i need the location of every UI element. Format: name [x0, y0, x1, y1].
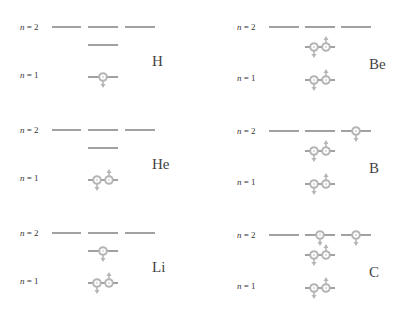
electron-spin-up-icon — [105, 272, 113, 287]
n2-label: n = 2 — [237, 22, 256, 32]
panel-c: n = 2n = 1C — [237, 230, 379, 299]
element-symbol: Be — [369, 56, 386, 72]
electron-spin-up-icon — [322, 173, 330, 188]
n2-label: n = 2 — [237, 230, 256, 240]
element-symbol: C — [369, 264, 379, 280]
n1-label: n = 1 — [237, 281, 256, 291]
electron-spin-down-icon — [310, 147, 318, 162]
n2-label: n = 2 — [237, 126, 256, 136]
panel-b: n = 2n = 1B — [237, 126, 379, 195]
electron-spin-up-icon — [322, 69, 330, 84]
element-symbol: Li — [152, 259, 165, 275]
n1-label: n = 1 — [20, 70, 39, 80]
n2-label: n = 2 — [20, 22, 39, 32]
electron-spin-down-icon — [99, 73, 107, 88]
electron-spin-down-icon — [93, 176, 101, 191]
electron-spin-down-icon — [310, 251, 318, 266]
electron-spin-up-icon — [322, 244, 330, 259]
electron-spin-down-icon — [99, 247, 107, 262]
n2-label: n = 2 — [20, 228, 39, 238]
panel-li: n = 2n = 1Li — [20, 228, 165, 294]
n1-label: n = 1 — [237, 177, 256, 187]
electron-spin-down-icon — [310, 284, 318, 299]
element-symbol: H — [152, 53, 163, 69]
n1-label: n = 1 — [20, 173, 39, 183]
element-symbol: B — [369, 160, 379, 176]
n1-label: n = 1 — [237, 73, 256, 83]
electron-spin-down-icon — [352, 127, 360, 142]
electron-spin-down-icon — [352, 231, 360, 246]
n1-label: n = 1 — [20, 276, 39, 286]
electron-spin-down-icon — [310, 43, 318, 58]
panel-h: n = 2n = 1H — [20, 22, 163, 88]
panel-he: n = 2n = 1He — [20, 125, 170, 191]
electron-spin-down-icon — [310, 76, 318, 91]
electron-spin-up-icon — [322, 140, 330, 155]
electron-spin-down-icon — [310, 180, 318, 195]
electron-spin-down-icon — [93, 279, 101, 294]
electron-spin-up-icon — [322, 36, 330, 51]
electron-spin-up-icon — [322, 277, 330, 292]
element-symbol: He — [152, 156, 170, 172]
electron-spin-down-icon — [316, 231, 324, 246]
electron-spin-up-icon — [105, 169, 113, 184]
orbital-energy-diagram: n = 2n = 1Hn = 2n = 1Hen = 2n = 1Lin = 2… — [0, 0, 401, 312]
panel-be: n = 2n = 1Be — [237, 22, 386, 91]
n2-label: n = 2 — [20, 125, 39, 135]
